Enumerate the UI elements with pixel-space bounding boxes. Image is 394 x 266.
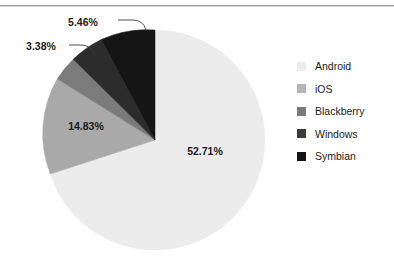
legend-label-ios: iOS (315, 84, 333, 95)
legend-swatch-icon-android (297, 62, 306, 71)
legend-item-windows[interactable]: Windows (297, 123, 393, 146)
legend-label-windows: Windows (315, 129, 358, 140)
legend-swatch-icon-ios (297, 84, 306, 93)
legend-swatch-icon-windows (297, 129, 306, 138)
chart-page: 5.46% 3.38% 14.83% 52.71% Android iOS Bl… (0, 0, 394, 266)
pie-label-android: 52.71% (187, 145, 223, 157)
pie-label-ios: 14.83% (68, 120, 104, 132)
pie-label-symbian: 5.46% (68, 16, 98, 28)
legend-label-blackberry: Blackberry (315, 106, 365, 117)
legend-swatch-icon-blackberry (297, 107, 306, 116)
legend-item-symbian[interactable]: Symbian (297, 145, 393, 168)
legend-item-ios[interactable]: iOS (297, 78, 393, 101)
legend-item-android[interactable]: Android (297, 55, 393, 78)
legend-item-blackberry[interactable]: Blackberry (297, 100, 393, 123)
chart-legend: Android iOS Blackberry Windows Symbian (297, 55, 393, 168)
header-divider-shadow (0, 6, 394, 7)
legend-label-symbian: Symbian (315, 151, 356, 162)
legend-label-android: Android (315, 61, 351, 72)
leader-line-symbian (118, 20, 146, 30)
pie-label-blackberry: 3.38% (26, 40, 56, 52)
legend-swatch-icon-symbian (297, 152, 306, 161)
